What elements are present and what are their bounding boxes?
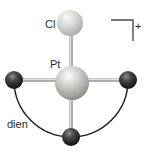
- atom-n-bottom: [62, 128, 80, 146]
- atom-n-right: [119, 71, 137, 89]
- dien-label: dien: [7, 118, 28, 130]
- molecule-svg: + Cl Pt dien: [0, 0, 150, 152]
- pt-label: Pt: [50, 58, 60, 70]
- molecule-figure: + Cl Pt dien: [0, 0, 150, 152]
- atom-pt: [55, 66, 89, 100]
- charge-bracket: [111, 20, 133, 41]
- atom-cl: [57, 10, 83, 36]
- atom-n-left: [5, 71, 23, 89]
- cl-label: Cl: [45, 18, 55, 30]
- charge-label: +: [135, 20, 141, 32]
